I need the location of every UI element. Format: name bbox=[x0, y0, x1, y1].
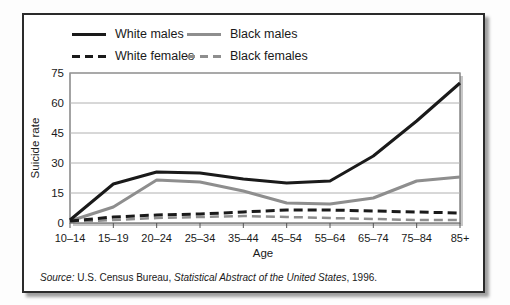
source-title: Statistical Abstract of the United State… bbox=[174, 272, 347, 283]
source-org: U.S. Census Bureau, bbox=[74, 272, 174, 283]
white-females-line-sample bbox=[72, 55, 106, 58]
legend-label: White females bbox=[115, 49, 194, 63]
legend-item-white-females: White females bbox=[72, 48, 194, 64]
legend-label: Black males bbox=[230, 27, 297, 41]
black-females-line-sample bbox=[187, 55, 221, 58]
legend-label: Black females bbox=[230, 49, 308, 63]
legend-item-black-males: Black males bbox=[187, 26, 297, 42]
white-males-line-sample bbox=[72, 33, 106, 36]
legend-item-black-females: Black females bbox=[187, 48, 308, 64]
source-suffix: , 1996. bbox=[346, 272, 377, 283]
source-citation: Source: U.S. Census Bureau, Statistical … bbox=[40, 272, 377, 283]
figure-box: White males Black males White females Bl… bbox=[22, 13, 485, 293]
black-males-line-sample bbox=[187, 33, 221, 36]
source-prefix: Source: bbox=[40, 272, 74, 283]
legend-item-white-males: White males bbox=[72, 26, 184, 42]
legend-label: White males bbox=[115, 27, 184, 41]
